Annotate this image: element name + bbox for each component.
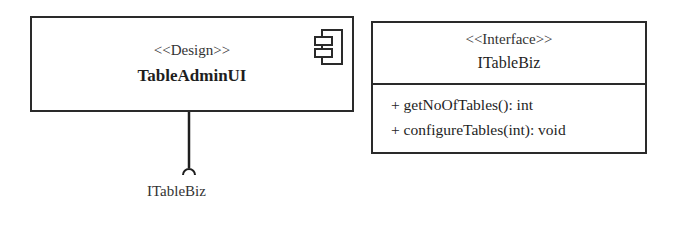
interface-box-itablebiz: <<Interface>> ITableBiz + getNoOfTables(… — [371, 21, 647, 154]
socket-icon — [183, 169, 195, 175]
operation-item: + configureTables(int): void — [391, 117, 566, 142]
required-interface-label: ITableBiz — [147, 183, 206, 200]
interface-name: ITableBiz — [373, 54, 645, 72]
interface-header: <<Interface>> ITableBiz — [373, 23, 645, 85]
interface-operations: + getNoOfTables(): int + configureTables… — [391, 92, 566, 142]
operation-item: + getNoOfTables(): int — [391, 92, 566, 117]
interface-stereotype: <<Interface>> — [373, 31, 645, 48]
